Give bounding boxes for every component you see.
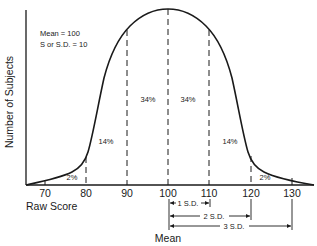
pct-label-120-130: 2% <box>260 173 271 182</box>
arrow-icon <box>287 224 291 228</box>
x-tick-70: 70 <box>39 187 51 199</box>
x-tick-80: 80 <box>80 187 92 199</box>
pct-label-80-90: 14% <box>98 137 113 146</box>
y-axis-label: Number of Subjects <box>3 56 15 148</box>
sd2-label: 2 S.D. <box>204 212 225 221</box>
sd-annotation: S or S.D. = 10 <box>40 40 87 49</box>
x-tick-130: 130 <box>283 187 301 199</box>
arrow-icon <box>205 201 209 205</box>
pct-label-90-100: 34% <box>140 95 155 104</box>
x-tick-100: 100 <box>159 187 177 199</box>
x-tick-labels: 70 80 90 100 110 120 130 <box>39 187 301 199</box>
arrow-icon <box>170 201 174 205</box>
normal-distribution-chart: Number of Subjects Mean = 100 S or S.D. … <box>0 0 317 246</box>
arrow-icon <box>170 214 174 218</box>
pct-label-110-120: 14% <box>222 137 237 146</box>
pct-label-70-80: 2% <box>67 173 78 182</box>
mean-annotation: Mean = 100 <box>40 29 80 38</box>
mean-label: Mean <box>155 232 181 244</box>
x-tick-120: 120 <box>242 187 260 199</box>
sd3-label: 3 S.D. <box>224 222 245 231</box>
arrow-icon <box>246 214 250 218</box>
x-tick-90: 90 <box>121 187 133 199</box>
sd-dashed-lines <box>86 9 251 185</box>
x-tick-110: 110 <box>201 187 218 199</box>
pct-label-100-110: 34% <box>180 95 195 104</box>
x-axis-label: Raw Score <box>26 200 78 212</box>
sd1-label: 1 S.D. <box>178 199 199 208</box>
arrow-icon <box>170 224 174 228</box>
